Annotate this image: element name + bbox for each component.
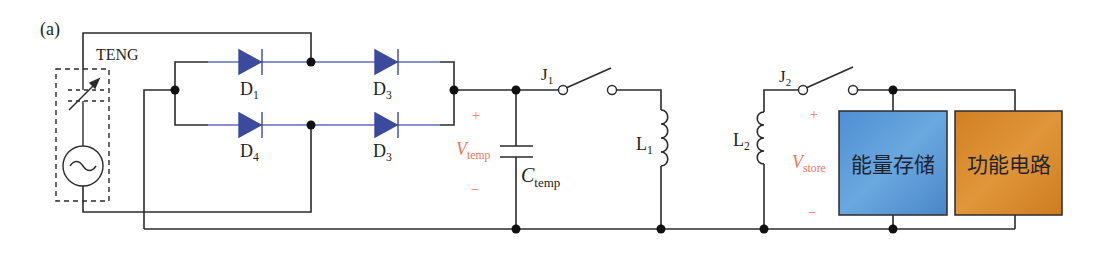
c-temp-label: Ctemp — [521, 165, 560, 189]
diode-d3-upper-label: D3 — [373, 80, 392, 102]
v-temp-plus: + — [472, 109, 480, 123]
inductor-l2-label: L2 — [733, 131, 750, 153]
switch-j1-contact — [559, 86, 568, 95]
switch-j2-contact — [799, 86, 808, 95]
inductor-l1-label: L1 — [636, 135, 653, 157]
energy-storage-label: 能量存储 — [839, 111, 947, 215]
diode-d3-lower-icon — [375, 113, 397, 137]
v-store-plus: + — [810, 108, 818, 122]
diode-d1-icon — [239, 50, 261, 74]
v-temp-label: Vtemp — [456, 140, 490, 162]
bridge-left-wire — [144, 90, 175, 229]
diode-d1-label: D1 — [240, 80, 259, 102]
diode-d3-lower-label: D3 — [373, 142, 392, 164]
switch-j2-label: J2 — [779, 68, 791, 88]
function-circuit-label: 功能电路 — [955, 111, 1062, 215]
diode-d4-label: D4 — [240, 142, 259, 164]
v-store-minus: − — [808, 206, 816, 220]
teng-label: TENG — [96, 47, 139, 63]
v-store-label: Vstore — [792, 153, 826, 175]
switch-j1-label: J1 — [541, 66, 553, 86]
v-temp-minus: − — [471, 183, 479, 197]
panel-label: (a) — [40, 20, 60, 38]
diode-d3-upper-icon — [375, 50, 397, 74]
circuit-diagram: (a) TENG D1 D3 D4 D3 + Vtemp − Ctemp J1 … — [0, 0, 1108, 253]
diode-d4-icon — [239, 113, 261, 137]
teng-bottom-wire — [83, 125, 311, 212]
